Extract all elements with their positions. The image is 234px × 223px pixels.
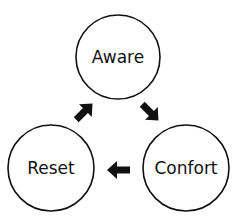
node-label-aware: Aware <box>92 47 144 67</box>
node-reset: Reset <box>8 125 94 211</box>
arrow-confort-to-reset-icon <box>107 161 130 179</box>
node-confort: Confort <box>143 125 229 211</box>
cycle-diagram: Aware Confort Reset <box>0 0 234 223</box>
arrow-aware-to-confort-icon <box>136 98 165 127</box>
node-label-confort: Confort <box>154 158 217 178</box>
arrow-reset-to-aware-icon <box>70 97 99 126</box>
node-aware: Aware <box>76 15 160 99</box>
node-label-reset: Reset <box>27 158 75 178</box>
